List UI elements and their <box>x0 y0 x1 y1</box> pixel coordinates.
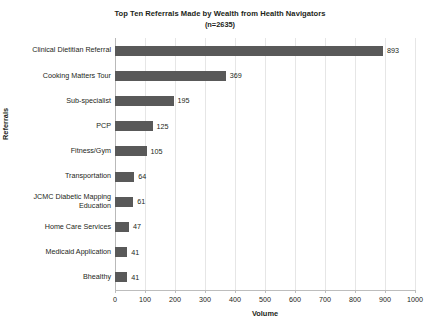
x-tick-200 <box>175 290 176 293</box>
bar[interactable] <box>115 272 127 282</box>
bar-value-label: 195 <box>178 95 190 106</box>
category-label: PCP <box>3 121 111 131</box>
bar-value-label: 41 <box>131 247 139 258</box>
category-label: Cooking Matters Tour <box>3 71 111 81</box>
category-label: Bhealthy <box>3 272 111 282</box>
bar-value-label: 41 <box>131 272 139 283</box>
bar[interactable] <box>115 247 127 257</box>
x-tick-600 <box>295 290 296 293</box>
bar-value-label: 64 <box>138 171 146 182</box>
bar[interactable] <box>115 197 133 207</box>
x-tick-700 <box>325 290 326 293</box>
bar-row[interactable]: 41 <box>115 265 415 290</box>
category-axis-labels: Clinical Dietitian ReferralCooking Matte… <box>0 38 111 290</box>
category-label: Clinical Dietitian Referral <box>3 45 111 55</box>
bar-value-label: 125 <box>157 121 169 132</box>
bar[interactable] <box>115 146 147 156</box>
bar[interactable] <box>115 71 226 81</box>
x-tick-800 <box>355 290 356 293</box>
x-tick-0 <box>115 290 116 293</box>
bar-row[interactable]: 369 <box>115 63 415 88</box>
bar[interactable] <box>115 96 174 106</box>
bar-row[interactable]: 195 <box>115 88 415 113</box>
bar-row[interactable]: 125 <box>115 114 415 139</box>
chart-subtitle: (n=2635) <box>0 19 440 30</box>
category-label: JCMC Diabetic Mapping Education <box>3 192 111 211</box>
category-label: Fitness/Gym <box>3 146 111 156</box>
x-tick-100 <box>145 290 146 293</box>
x-tick-900 <box>385 290 386 293</box>
bar-row[interactable]: 41 <box>115 240 415 265</box>
bar[interactable] <box>115 121 153 131</box>
chart-title: Top Ten Referrals Made by Wealth from He… <box>0 8 440 19</box>
chart-title-block: Top Ten Referrals Made by Wealth from He… <box>0 8 440 30</box>
x-tick-300 <box>205 290 206 293</box>
bar-value-label: 893 <box>387 45 399 56</box>
category-label: Sub-specialist <box>3 96 111 106</box>
bar-row[interactable]: 893 <box>115 38 415 63</box>
bar[interactable] <box>115 46 383 56</box>
x-tick-500 <box>265 290 266 293</box>
x-tick-label-1000: 1000 <box>395 295 435 305</box>
bar-value-label: 47 <box>133 221 141 232</box>
x-tick-1000 <box>415 290 416 293</box>
gridline-1000 <box>415 38 416 290</box>
bar-row[interactable]: 64 <box>115 164 415 189</box>
bar[interactable] <box>115 172 134 182</box>
category-label: Medicaid Application <box>3 247 111 257</box>
bar[interactable] <box>115 222 129 232</box>
plot-area: 8933691951251056461474141 <box>115 38 415 290</box>
x-axis-title: Volume <box>115 309 415 318</box>
bar-value-label: 369 <box>230 70 242 81</box>
bar-row[interactable]: 61 <box>115 189 415 214</box>
category-label: Transportation <box>3 171 111 181</box>
category-label: Home Care Services <box>3 222 111 232</box>
x-tick-400 <box>235 290 236 293</box>
bar-value-label: 105 <box>151 146 163 157</box>
bar-row[interactable]: 105 <box>115 139 415 164</box>
bar-row[interactable]: 47 <box>115 214 415 239</box>
bar-value-label: 61 <box>137 196 145 207</box>
